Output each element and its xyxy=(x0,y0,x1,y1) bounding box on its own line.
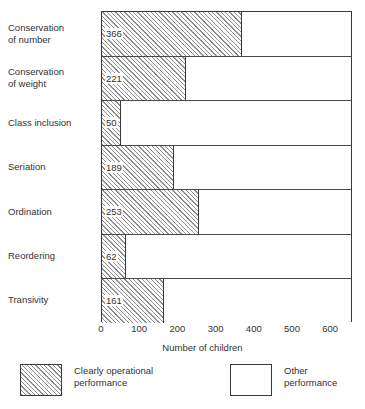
x-tick-200: 200 xyxy=(169,323,185,335)
category-label-transivity: Transivity xyxy=(8,294,98,306)
category-label-conservation-of-number: Conservation of number xyxy=(8,22,98,45)
legend-label: Other performance xyxy=(284,364,337,388)
x-tick-0: 0 xyxy=(98,323,103,335)
bar-value-label: 253 xyxy=(105,206,123,217)
bar-value-label: 161 xyxy=(105,295,123,306)
category-label-conservation-of-weight: Conservation of weight xyxy=(8,66,98,89)
x-tick-300: 300 xyxy=(208,323,224,335)
category-label-seriation: Seriation xyxy=(8,161,98,173)
legend-label: Clearly operational performance xyxy=(74,364,153,388)
bar-row: 62 xyxy=(102,235,351,280)
category-label-ordination: Ordination xyxy=(8,206,98,218)
bar-value-label: 62 xyxy=(105,251,118,262)
x-axis-title: Number of children xyxy=(0,342,365,353)
chart-legend: Clearly operational performance Other pe… xyxy=(0,364,365,409)
legend-item-other: Other performance xyxy=(230,364,337,396)
category-label-class-inclusion: Class inclusion xyxy=(8,117,98,129)
plot-area: 366 221 50 189 253 62 xyxy=(101,11,352,322)
bar-row: 221 xyxy=(102,57,351,102)
x-tick-400: 400 xyxy=(246,323,262,335)
bar-value-label: 221 xyxy=(105,73,123,84)
x-tick-600: 600 xyxy=(322,323,338,335)
x-axis-ticks: 0 100 200 300 400 500 600 xyxy=(0,323,365,337)
bar-value-label: 189 xyxy=(105,162,123,173)
bar-row: 161 xyxy=(102,279,351,323)
category-label-reordering: Reordering xyxy=(8,250,98,262)
bar-chart: Conservation of number Conservation of w… xyxy=(0,0,365,409)
bar-row: 189 xyxy=(102,146,351,191)
bar-segment-clearly-operational xyxy=(102,12,242,56)
bar-value-label: 50 xyxy=(105,117,118,128)
x-tick-100: 100 xyxy=(131,323,147,335)
bar-segment-other xyxy=(102,101,351,145)
white-swatch-icon xyxy=(230,364,272,396)
bar-row: 253 xyxy=(102,190,351,235)
bar-value-label: 366 xyxy=(105,28,123,39)
hatched-swatch-icon xyxy=(20,364,62,396)
bar-row: 50 xyxy=(102,101,351,146)
bar-row: 366 xyxy=(102,12,351,57)
legend-item-clearly-operational: Clearly operational performance xyxy=(20,364,153,396)
x-tick-500: 500 xyxy=(284,323,300,335)
bar-segment-other xyxy=(102,235,351,279)
